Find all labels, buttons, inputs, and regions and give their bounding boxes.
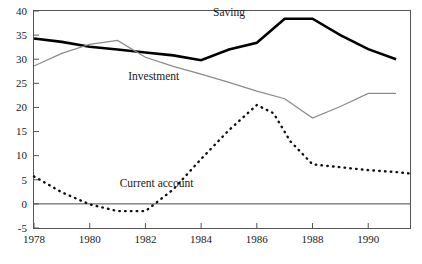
series-label-current-account: Current account bbox=[120, 177, 195, 189]
line-chart: -50510152025303540 197819801982198419861… bbox=[0, 0, 422, 264]
y-tick-label: 10 bbox=[16, 149, 28, 161]
chart-container: -50510152025303540 197819801982198419861… bbox=[0, 0, 422, 264]
x-axis-tick-labels: 1978198019821984198619881990 bbox=[23, 233, 380, 245]
y-axis-ticks bbox=[34, 11, 39, 228]
x-tick-label: 1982 bbox=[134, 233, 156, 245]
series-annotations: SavingInvestmentCurrent account bbox=[120, 6, 246, 190]
x-tick-label: 1980 bbox=[79, 233, 102, 245]
y-axis-tick-labels: -50510152025303540 bbox=[16, 5, 28, 234]
series-line-saving bbox=[34, 19, 396, 60]
series-line-investment bbox=[34, 40, 396, 118]
y-tick-label: 35 bbox=[16, 29, 28, 41]
series-lines bbox=[34, 19, 410, 211]
x-tick-label: 1988 bbox=[302, 233, 325, 245]
y-tick-label: 5 bbox=[22, 174, 28, 186]
y-tick-label: 0 bbox=[22, 198, 28, 210]
x-tick-label: 1984 bbox=[190, 233, 213, 245]
y-tick-label: 30 bbox=[16, 53, 28, 65]
y-tick-label: 15 bbox=[16, 125, 28, 137]
x-tick-label: 1986 bbox=[246, 233, 269, 245]
y-tick-label: 20 bbox=[16, 101, 28, 113]
y-tick-label: -5 bbox=[18, 222, 28, 234]
x-tick-label: 1990 bbox=[357, 233, 380, 245]
x-axis-ticks bbox=[34, 223, 368, 228]
x-tick-label: 1978 bbox=[23, 233, 46, 245]
series-label-investment: Investment bbox=[128, 70, 180, 82]
y-tick-label: 40 bbox=[16, 5, 28, 17]
y-tick-label: 25 bbox=[16, 77, 28, 89]
series-label-saving: Saving bbox=[213, 6, 245, 19]
series-line-current-account bbox=[34, 105, 410, 211]
